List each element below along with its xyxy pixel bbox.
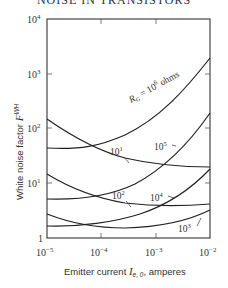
pointer-1e5: [172, 145, 176, 146]
label-rg-1e3: 103: [178, 222, 191, 234]
y-axis-title: White noise factor FWH: [13, 103, 25, 200]
x-tick-1e-4: 10−4: [90, 246, 108, 258]
y-tick-1: 1: [38, 233, 43, 244]
noise-factor-chart: 104 103 102 101 1 10−5 10−4 10−3 10−2 Em…: [0, 0, 228, 288]
y-tick-1e3: 103: [27, 68, 41, 80]
y-tick-1e1: 101: [27, 177, 41, 189]
pointer-1e4: [168, 196, 174, 198]
label-rg-1e5: 105: [154, 140, 167, 152]
y-tick-1e2: 102: [27, 122, 41, 134]
x-tick-1e-5: 10−5: [36, 246, 54, 258]
y-tick-1e4: 104: [27, 13, 41, 25]
pointer-1e3: [197, 218, 201, 226]
curve-rg-1e4: [47, 169, 210, 226]
label-rg-1e1: 101: [110, 145, 123, 157]
x-tick-1e-2: 10−2: [199, 246, 217, 258]
label-rg-1e2: 102: [112, 189, 125, 201]
x-axis-title: Emitter current Ie, 0, amperes: [64, 265, 186, 278]
x-tick-1e-3: 10−3: [145, 246, 163, 258]
curves: [47, 58, 210, 228]
label-rg-1e4: 104: [150, 191, 164, 203]
